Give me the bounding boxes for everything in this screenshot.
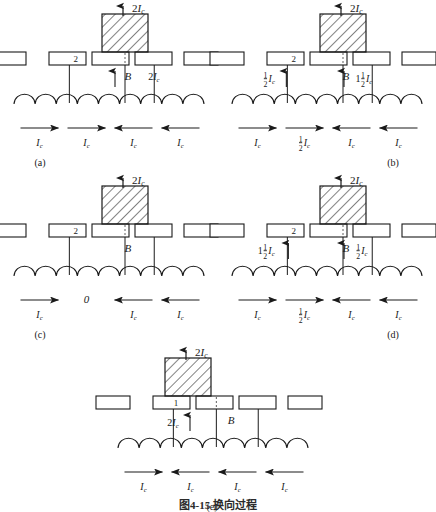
commutator-segment [0,224,26,237]
commutator-segment [267,224,304,237]
svg-text:2: 2 [299,144,303,153]
commutator-segment [210,52,244,65]
commutator-segment [92,224,129,237]
segment-number: 2 [73,54,78,64]
panel-label-b: (b) [387,157,399,169]
panel-label-a: (a) [34,157,45,169]
brush-block [320,186,366,224]
commutator-segment [310,224,347,237]
svg-text:2: 2 [299,316,303,325]
commutator-segment [49,224,86,237]
commutator-segment [353,224,390,237]
panel-label-d: (d) [387,329,399,341]
commutator-segment [353,52,390,65]
commutator-segment [402,52,436,65]
commutator-segment [210,224,244,237]
segment-number: 2 [291,54,296,64]
commutator-segment [153,396,190,409]
brush-block [320,14,366,52]
commutator-segment [288,396,322,409]
brush-block [102,186,148,224]
commutator-segment [96,396,130,409]
svg-text:2: 2 [356,252,360,261]
commutator-segment [135,224,172,237]
svg-text:1: 1 [258,245,263,256]
commutator-segment [0,52,26,65]
field-label-B: B [125,242,132,254]
segment-number: 2 [291,226,296,236]
commutator-segment [239,396,276,409]
field-label-B: B [125,70,132,82]
segment-number: 2 [73,226,78,236]
commutator-segment [310,52,347,65]
commutator-segment [135,52,172,65]
field-label-B: B [228,414,235,426]
commutator-segment [267,52,304,65]
panel-label-c: (c) [34,329,45,341]
brush-block [165,358,211,396]
svg-text:1: 1 [356,73,361,84]
commutator-segment [49,52,86,65]
brush-block [102,14,148,52]
commutator-segment [196,396,233,409]
commutator-segment [92,52,129,65]
figure-caption: 图4-15 换向过程 [179,498,257,511]
branch-current-label: 0 [84,293,90,305]
svg-text:2: 2 [263,252,267,261]
svg-text:2: 2 [263,80,267,89]
svg-text:0: 0 [84,293,90,305]
commutation-figure: 2Ic2B2IcIcIcIcIc(a)2Ic2B12Ic112IcIc12IcI… [0,0,436,512]
commutator-segment [402,224,436,237]
segment-number: 1 [174,398,179,408]
svg-text:2: 2 [361,80,365,89]
